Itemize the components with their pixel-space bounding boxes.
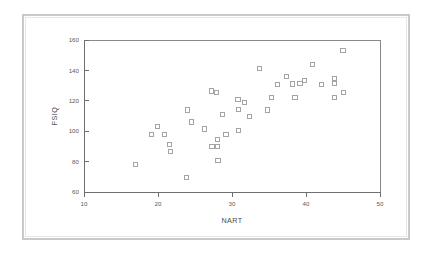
y-tick-label: 160 bbox=[69, 36, 80, 43]
data-point-marker bbox=[209, 89, 213, 93]
data-point-marker bbox=[189, 120, 193, 124]
data-point-marker bbox=[298, 81, 302, 85]
axes-group bbox=[84, 40, 380, 192]
data-point-marker bbox=[275, 83, 279, 87]
y-tick-label: 80 bbox=[72, 158, 79, 165]
data-point-marker bbox=[242, 100, 246, 104]
data-point-marker bbox=[342, 90, 346, 94]
scatter-plot-canvas: 6080100120140160 1020304050 FSIQ NART bbox=[0, 0, 431, 253]
data-point-marker bbox=[168, 150, 172, 154]
data-point-marker bbox=[210, 144, 214, 148]
x-axis-ticks: 1020304050 bbox=[81, 192, 384, 207]
data-point-marker bbox=[257, 67, 261, 71]
data-point-marker bbox=[332, 77, 336, 81]
data-point-marker bbox=[220, 112, 224, 116]
x-tick-label: 40 bbox=[303, 200, 310, 207]
data-markers-group bbox=[134, 49, 346, 180]
y-tick-label: 100 bbox=[69, 127, 80, 134]
data-point-marker bbox=[333, 81, 337, 85]
data-point-marker bbox=[224, 132, 228, 136]
data-point-marker bbox=[311, 62, 315, 66]
data-point-marker bbox=[265, 108, 269, 112]
data-point-marker bbox=[215, 137, 219, 141]
y-tick-label: 120 bbox=[69, 97, 80, 104]
data-point-marker bbox=[155, 125, 159, 129]
data-point-marker bbox=[291, 82, 295, 86]
x-tick-label: 50 bbox=[377, 200, 384, 207]
data-point-marker bbox=[163, 132, 167, 136]
x-axis-title: NART bbox=[221, 216, 242, 225]
scatter-plot: 6080100120140160 1020304050 FSIQ NART bbox=[0, 0, 431, 253]
data-point-marker bbox=[285, 74, 289, 78]
data-point-marker bbox=[319, 83, 323, 87]
data-point-marker bbox=[203, 127, 207, 131]
x-tick-label: 20 bbox=[155, 200, 162, 207]
y-axis-title: FSIQ bbox=[50, 107, 59, 125]
data-point-marker bbox=[168, 143, 172, 147]
x-tick-label: 30 bbox=[229, 200, 236, 207]
data-point-marker bbox=[302, 78, 306, 82]
data-point-marker bbox=[248, 115, 252, 119]
data-point-marker bbox=[293, 96, 297, 100]
y-tick-label: 60 bbox=[72, 188, 79, 195]
data-point-marker bbox=[236, 97, 240, 101]
data-point-marker bbox=[216, 159, 220, 163]
y-axis-ticks: 6080100120140160 bbox=[69, 36, 89, 195]
data-point-marker bbox=[341, 49, 345, 53]
data-point-marker bbox=[215, 144, 219, 148]
data-point-marker bbox=[149, 132, 153, 136]
data-point-marker bbox=[237, 107, 241, 111]
data-point-marker bbox=[214, 90, 218, 94]
data-point-marker bbox=[333, 96, 337, 100]
data-point-marker bbox=[134, 163, 138, 167]
data-point-marker bbox=[237, 128, 241, 132]
x-tick-label: 10 bbox=[81, 200, 88, 207]
y-tick-label: 140 bbox=[69, 67, 80, 74]
data-point-marker bbox=[184, 175, 188, 179]
data-point-marker bbox=[186, 108, 190, 112]
figure-root: 6080100120140160 1020304050 FSIQ NART bbox=[0, 0, 431, 253]
data-point-marker bbox=[269, 96, 273, 100]
